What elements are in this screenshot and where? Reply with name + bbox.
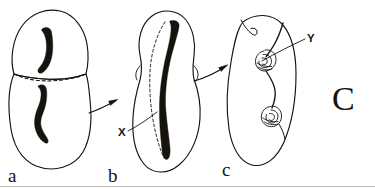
panel-c-upper-coil-y [255,50,276,71]
arrow-a-to-b-head [109,99,119,105]
label-y: Y [307,32,315,44]
panel-b-label: b [108,165,118,186]
panel-c-lower-coil [261,106,281,127]
arrow-b-to-c [194,65,228,81]
panel-a-group: a [8,10,91,186]
figure-letter-c: C [332,80,355,117]
panel-b-chromatin-body [159,21,179,160]
panel-a-lower-lobe-outline [9,74,91,169]
figure-canvas: a X b [0,0,375,189]
panel-b-left-waist-notch [136,66,140,80]
panel-c-lower-coil-outer [261,106,281,127]
panel-c-filament-tail [279,124,285,139]
panel-a-label: a [8,165,17,186]
panel-b-group: X b [108,11,200,186]
panel-b-right-waist-notch [194,66,198,81]
panel-c-lower-coil-inner-2 [269,113,274,120]
panel-c-cell-outline [227,15,296,165]
arrow-a-to-b [89,99,118,113]
panel-a-upper-chromatin-body [38,27,53,73]
panel-a-lower-chromatin-body [35,85,49,144]
diagram-svg: a X b [0,0,375,189]
panel-c-group: Y c [222,15,315,180]
panel-c-label: c [222,159,230,180]
panel-c-filament-upper [266,23,283,57]
panel-c-filament-connector [266,71,275,108]
label-x: X [118,126,126,138]
